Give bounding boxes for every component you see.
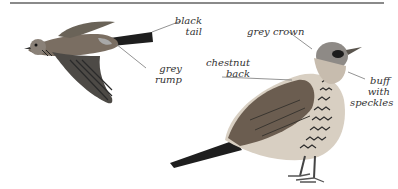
label-line: chestnut (206, 57, 250, 68)
label-buff-with-speckles: buff with speckles (350, 75, 390, 108)
label-chestnut-back: chestnut back (206, 57, 250, 79)
label-line: rump (150, 74, 182, 85)
label-grey-rump: grey rump (150, 63, 182, 85)
label-line: black (170, 15, 202, 26)
label-line: grey (150, 63, 182, 74)
flying-bird (24, 22, 153, 104)
label-black-tail: black tail (170, 15, 202, 37)
label-line: speckles (350, 97, 390, 108)
label-line: with (350, 86, 390, 97)
perched-bird (170, 42, 362, 182)
label-line: back (206, 68, 250, 79)
label-line: tail (170, 26, 202, 37)
label-line: buff (350, 75, 390, 86)
label-line: grey crown (247, 26, 304, 37)
label-grey-crown: grey crown (247, 26, 304, 37)
